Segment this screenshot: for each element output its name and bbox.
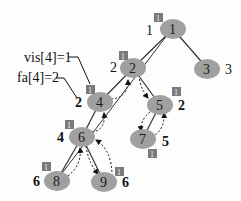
- svg-text:1: 1: [146, 23, 153, 38]
- svg-text:6: 6: [122, 175, 129, 190]
- svg-text:2: 2: [110, 60, 117, 75]
- svg-text:6: 6: [78, 130, 85, 145]
- svg-text:1: 1: [67, 121, 71, 130]
- node-3: 3 3: [194, 59, 232, 79]
- arrow-6-to-4: [92, 113, 104, 132]
- svg-text:2: 2: [75, 95, 82, 110]
- svg-text:1: 1: [169, 22, 176, 37]
- svg-text:4: 4: [57, 130, 64, 145]
- node-4: 4 1 2: [75, 85, 113, 112]
- dfs-tree-diagram: vis[4]=1 fa[4]=2 1 1 1 2 1 2 3 3 4 1 2 5…: [0, 0, 241, 201]
- svg-text:7: 7: [139, 132, 146, 147]
- node-9: 9 1 6: [91, 167, 129, 192]
- svg-text:1: 1: [44, 163, 48, 172]
- svg-text:6: 6: [33, 174, 40, 189]
- fa-annotation: fa[4]=2: [17, 70, 59, 85]
- svg-text:3: 3: [225, 62, 232, 77]
- svg-text:1: 1: [174, 88, 178, 97]
- svg-text:3: 3: [203, 62, 210, 77]
- svg-text:2: 2: [129, 61, 136, 76]
- svg-text:4: 4: [96, 95, 103, 110]
- svg-text:1: 1: [117, 168, 121, 177]
- vis-annotation: vis[4]=1: [24, 50, 72, 65]
- node-7: 7 1 5: [130, 129, 169, 159]
- node-5: 5 1 2: [147, 87, 185, 115]
- svg-text:1: 1: [121, 52, 125, 61]
- node-1: 1 1 1: [146, 13, 186, 39]
- svg-text:1: 1: [88, 86, 92, 95]
- svg-text:8: 8: [53, 174, 60, 189]
- node-2: 2 1 2: [110, 51, 146, 78]
- svg-text:5: 5: [162, 134, 169, 149]
- svg-text:2: 2: [178, 98, 185, 113]
- svg-text:9: 9: [100, 175, 107, 190]
- svg-text:5: 5: [156, 98, 163, 113]
- fa-leader: [56, 78, 77, 98]
- svg-text:1: 1: [150, 150, 154, 159]
- svg-text:1: 1: [156, 14, 160, 23]
